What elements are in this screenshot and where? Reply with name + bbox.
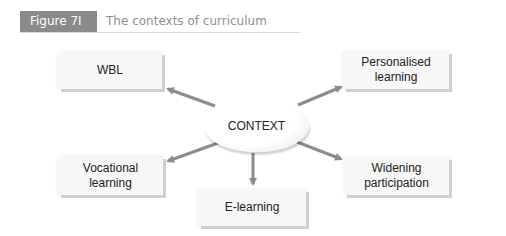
arrow-to-wbl [168,89,215,106]
node-vocational: Vocational learning [58,156,163,195]
node-personalised: Personalised learning [343,51,449,89]
node-label: Personalised learning [357,55,435,85]
node-elearning: E-learning [198,189,306,226]
center-node-context: CONTEXT [204,100,309,152]
center-label: CONTEXT [228,119,285,133]
node-label: Widening participation [354,161,439,191]
arrow-to-widening [297,142,341,159]
node-wbl: WBL [58,52,162,89]
arrow-to-personalised [298,87,341,105]
node-label: E-learning [225,200,280,215]
node-label: Vocational learning [76,161,145,191]
node-label: WBL [97,63,123,78]
node-widening: Widening participation [344,157,449,195]
arrow-to-vocational [168,143,218,161]
